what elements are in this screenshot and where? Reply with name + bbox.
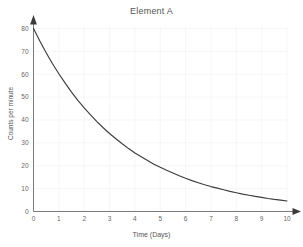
y-tick-label: 40 (21, 116, 29, 123)
gridlines (34, 27, 288, 212)
chart-container: Element A Counts per minute Time (Days) … (0, 0, 303, 247)
y-tick-label: 0 (25, 208, 29, 215)
x-tick-label: 9 (260, 215, 264, 222)
axes (30, 15, 301, 215)
y-tick-label: 50 (21, 93, 29, 100)
y-tick-label: 80 (21, 25, 29, 32)
y-tick-label: 10 (21, 185, 29, 192)
x-tick-label: 4 (133, 215, 137, 222)
x-tick-label: 3 (108, 215, 112, 222)
y-tick-label: 70 (21, 48, 29, 55)
tick-labels: 01020304050607080012345678910 (21, 25, 291, 222)
x-tick-label: 2 (82, 215, 86, 222)
x-tick-label: 1 (57, 215, 61, 222)
x-tick-label: 6 (184, 215, 188, 222)
x-tick-label: 8 (234, 215, 238, 222)
arrow-up-icon (30, 15, 37, 25)
x-tick-label: 7 (209, 215, 213, 222)
x-tick-label: 5 (158, 215, 162, 222)
x-tick-label: 0 (32, 215, 36, 222)
plot-area: 01020304050607080012345678910 (0, 0, 303, 247)
y-tick-label: 20 (21, 162, 29, 169)
arrow-right-icon (293, 208, 302, 215)
y-tick-label: 60 (21, 71, 29, 78)
y-tick-label: 30 (21, 139, 29, 146)
x-tick-label: 10 (283, 215, 291, 222)
